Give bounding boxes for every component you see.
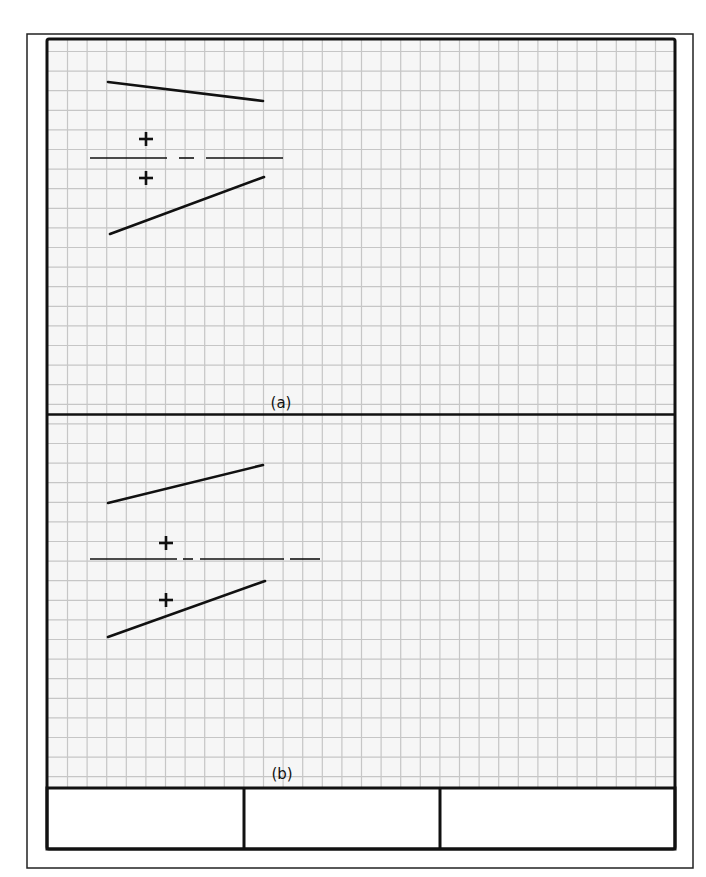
drawing-sheet: (a) (b) <box>0 0 706 877</box>
panel-b-label: (b) <box>271 765 292 783</box>
title-block <box>47 788 675 849</box>
title-block-frame <box>47 788 675 849</box>
panel-a-label: (a) <box>271 394 292 412</box>
